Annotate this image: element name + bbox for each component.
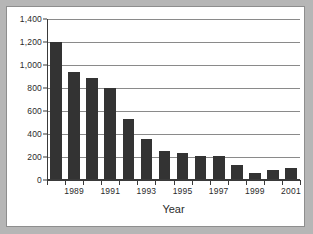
- bar-slot: [101, 19, 119, 179]
- x-tick-mark: [137, 180, 138, 185]
- bar: [231, 165, 243, 179]
- bar-slot: [65, 19, 83, 179]
- bar-slot: [246, 19, 264, 179]
- x-axis-tick-labels: 1989199119931995199719992001: [47, 186, 300, 198]
- x-tick-mark: [300, 180, 301, 185]
- x-tick-mark: [192, 180, 193, 185]
- bar-slot: [192, 19, 210, 179]
- x-tick-label: 1999: [245, 186, 265, 196]
- x-tick-mark: [83, 180, 84, 185]
- x-tick-label: 1993: [137, 186, 157, 196]
- bar-slot: [174, 19, 192, 179]
- bar-series: [47, 19, 300, 179]
- y-tick-label: 800: [27, 83, 42, 93]
- x-tick-label: 1989: [64, 186, 84, 196]
- bar-slot: [83, 19, 101, 179]
- x-axis-ticks: [47, 180, 300, 185]
- y-tick-label: 1,000: [20, 60, 42, 70]
- bar-slot: [119, 19, 137, 179]
- x-tick-label: 1995: [173, 186, 193, 196]
- y-tick-label: 600: [27, 106, 42, 116]
- x-tick-label: 2001: [281, 186, 301, 196]
- plot-area: 02004006008001,0001,2001,400 19891991199…: [47, 19, 300, 180]
- y-tick-label: 1,400: [20, 14, 42, 24]
- x-axis-title: Year: [47, 203, 300, 215]
- bar-slot: [264, 19, 282, 179]
- x-tick-mark: [228, 180, 229, 185]
- y-tick-label: 1,200: [20, 37, 42, 47]
- bar: [123, 119, 135, 179]
- x-tick-label: 1997: [209, 186, 229, 196]
- x-tick-mark: [101, 180, 102, 185]
- y-tick-label: 0: [37, 175, 42, 185]
- x-tick-mark: [246, 180, 247, 185]
- x-tick-mark: [210, 180, 211, 185]
- bar: [68, 72, 80, 179]
- bar-slot: [155, 19, 173, 179]
- bar-slot: [282, 19, 300, 179]
- bar: [177, 153, 189, 179]
- bar-slot: [228, 19, 246, 179]
- x-tick-mark: [119, 180, 120, 185]
- x-tick-mark: [282, 180, 283, 185]
- bar-slot: [47, 19, 65, 179]
- bar: [50, 42, 62, 179]
- bar-slot: [137, 19, 155, 179]
- bar: [141, 139, 153, 179]
- bar: [249, 173, 261, 179]
- x-tick-mark: [47, 180, 48, 185]
- x-tick-mark: [174, 180, 175, 185]
- x-tick-mark: [65, 180, 66, 185]
- y-tick-label: 200: [27, 152, 42, 162]
- x-tick-mark: [264, 180, 265, 185]
- bar: [285, 168, 297, 179]
- bar: [159, 151, 171, 179]
- y-tick-label: 400: [27, 129, 42, 139]
- chart-figure: 02004006008001,0001,2001,400 19891991199…: [6, 6, 305, 227]
- x-tick-label: 1991: [100, 186, 120, 196]
- bar: [213, 156, 225, 179]
- x-tick-mark: [155, 180, 156, 185]
- bar-slot: [210, 19, 228, 179]
- bar: [104, 88, 116, 179]
- bar: [86, 78, 98, 179]
- bar: [267, 170, 279, 179]
- bar: [195, 156, 207, 179]
